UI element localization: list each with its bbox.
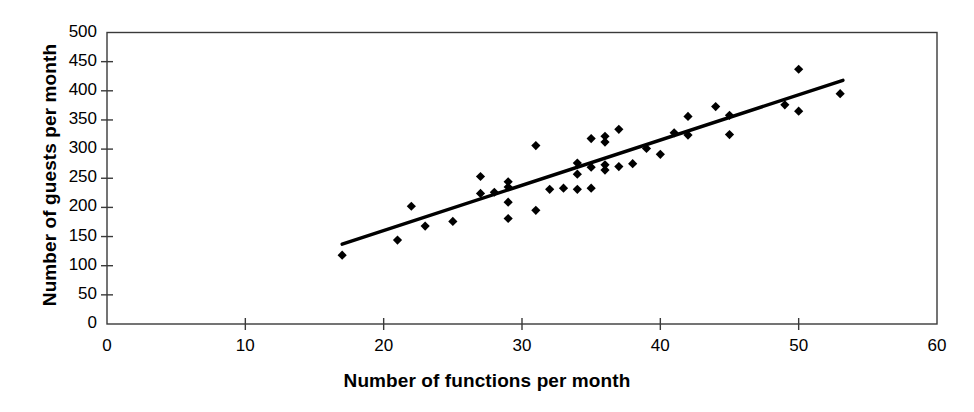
scatter-chart: Number of functions per month Number of … [0, 0, 974, 412]
data-point [614, 125, 623, 134]
data-point [545, 185, 554, 194]
x-tick-label: 60 [907, 336, 967, 356]
y-tick-label: 100 [39, 255, 97, 275]
data-point [614, 162, 623, 171]
data-point [531, 141, 540, 150]
data-point [628, 159, 637, 168]
x-tick-label: 40 [630, 336, 690, 356]
data-point [407, 202, 416, 211]
data-point [794, 65, 803, 74]
data-point [656, 150, 665, 159]
data-point [836, 89, 845, 98]
data-point [531, 206, 540, 215]
y-tick-label: 150 [39, 226, 97, 246]
data-point [587, 184, 596, 193]
y-tick-label: 300 [39, 138, 97, 158]
data-point [725, 130, 734, 139]
trend-line [342, 80, 843, 244]
x-tick-label: 30 [492, 336, 552, 356]
y-tick-label: 400 [39, 80, 97, 100]
x-axis-title: Number of functions per month [0, 370, 974, 392]
x-tick-label: 20 [354, 336, 414, 356]
trend-line-segment [342, 80, 843, 244]
y-tick-label: 50 [39, 284, 97, 304]
data-point [711, 102, 720, 111]
data-point [600, 138, 609, 147]
data-point [504, 198, 513, 207]
x-tick-label: 50 [769, 336, 829, 356]
data-point [600, 165, 609, 174]
data-point [559, 184, 568, 193]
data-point [587, 134, 596, 143]
x-tick-label: 0 [77, 336, 137, 356]
plot-border [107, 33, 937, 325]
y-tick-label: 250 [39, 167, 97, 187]
data-point [421, 221, 430, 230]
data-point [573, 185, 582, 194]
y-tick-label: 350 [39, 109, 97, 129]
data-point [504, 214, 513, 223]
data-point [448, 217, 457, 226]
y-tick-label: 450 [39, 51, 97, 71]
data-point [573, 170, 582, 179]
data-point [794, 107, 803, 116]
y-tick-label: 200 [39, 196, 97, 216]
x-tick-label: 10 [215, 336, 275, 356]
y-tick-label: 500 [39, 22, 97, 42]
data-point [476, 172, 485, 181]
y-tick-label: 0 [39, 313, 97, 333]
plot-frame [107, 33, 937, 325]
data-point [338, 251, 347, 260]
data-point [683, 112, 692, 121]
data-point [393, 235, 402, 244]
